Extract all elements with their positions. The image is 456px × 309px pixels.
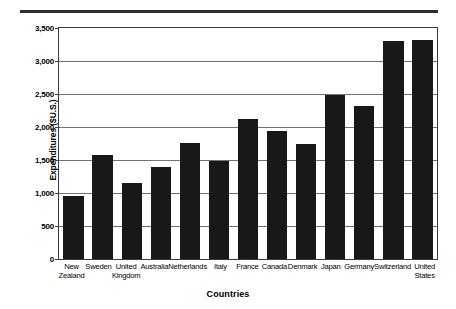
y-axis-tick-label: 3,500 bbox=[35, 24, 54, 33]
bar-slot bbox=[379, 28, 408, 259]
bars-group bbox=[59, 28, 437, 259]
y-axis-tick-label: 1,500 bbox=[35, 156, 54, 165]
bar[interactable] bbox=[151, 167, 171, 259]
bar[interactable] bbox=[122, 183, 142, 259]
bar[interactable] bbox=[325, 95, 345, 259]
bar-slot bbox=[350, 28, 379, 259]
bar-slot bbox=[292, 28, 321, 259]
bar[interactable] bbox=[92, 155, 112, 259]
y-axis-tick-label: 1,000 bbox=[35, 189, 54, 198]
bar-slot bbox=[233, 28, 262, 259]
x-axis-tick-labels: NewZealandSwedenUnitedKingdomAustraliaNe… bbox=[58, 262, 438, 281]
x-axis-tick-label: Denmark bbox=[288, 262, 317, 281]
y-axis-tick-label: 2,500 bbox=[35, 90, 54, 99]
x-axis-tick-label: Netherlands bbox=[168, 262, 207, 281]
y-axis-tick-label: 3,000 bbox=[35, 57, 54, 66]
bar[interactable] bbox=[238, 119, 258, 259]
clipped-title-text bbox=[0, 0, 456, 7]
bar-slot bbox=[88, 28, 117, 259]
x-axis-tick-label: Switzerland bbox=[374, 262, 411, 281]
bar-slot bbox=[117, 28, 146, 259]
bar[interactable] bbox=[383, 41, 403, 259]
bar[interactable] bbox=[63, 196, 83, 259]
x-axis-tick-label: UnitedStates bbox=[411, 262, 438, 281]
x-axis-tick-label: Japan bbox=[317, 262, 344, 281]
x-axis-tick-label: Italy bbox=[207, 262, 234, 281]
bar-slot bbox=[408, 28, 437, 259]
x-axis-tick-label: Canada bbox=[261, 262, 288, 281]
bar[interactable] bbox=[412, 40, 432, 259]
y-axis-tick-label: 2,000 bbox=[35, 123, 54, 132]
x-axis-tick-label: Germany bbox=[344, 262, 374, 281]
bar-slot bbox=[146, 28, 175, 259]
bar[interactable] bbox=[296, 144, 316, 259]
x-axis-tick-label: NewZealand bbox=[58, 262, 85, 281]
bar-chart-figure: Expenditures ($U.S.) 05001,0001,5002,000… bbox=[0, 0, 456, 309]
y-axis-tick-mark bbox=[55, 259, 59, 260]
y-axis-tick-label: 500 bbox=[41, 222, 54, 231]
x-axis-tick-label: Australia bbox=[140, 262, 168, 281]
x-axis-title: Countries bbox=[0, 289, 456, 299]
bar-slot bbox=[263, 28, 292, 259]
bar-slot bbox=[59, 28, 88, 259]
bar[interactable] bbox=[180, 143, 200, 259]
x-axis-tick-label: UnitedKingdom bbox=[112, 262, 141, 281]
bar-slot bbox=[204, 28, 233, 259]
bar-slot bbox=[175, 28, 204, 259]
y-axis-title: Expenditures ($U.S.) bbox=[48, 40, 58, 240]
y-axis-tick-label: 0 bbox=[50, 255, 54, 264]
x-axis-tick-label: France bbox=[234, 262, 261, 281]
plot-area: 05001,0001,5002,0002,5003,0003,500 bbox=[58, 27, 438, 260]
bar-slot bbox=[321, 28, 350, 259]
top-rule-divider bbox=[20, 10, 438, 13]
bar[interactable] bbox=[267, 131, 287, 259]
bar[interactable] bbox=[209, 161, 229, 259]
x-axis-tick-label: Sweden bbox=[85, 262, 112, 281]
bar[interactable] bbox=[354, 106, 374, 259]
